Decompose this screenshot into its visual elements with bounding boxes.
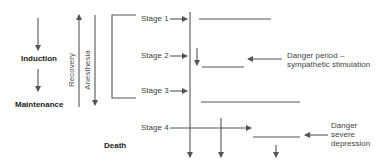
stage-bracket — [112, 15, 136, 98]
induction-label: Induction — [21, 55, 57, 63]
stage-4-label: Stage 4 — [141, 124, 169, 132]
danger-severe-line1: Danger — [331, 121, 370, 130]
recovery-label: Recovery — [68, 50, 76, 90]
danger-severe-line2: severe — [331, 130, 370, 139]
danger-period-note: Danger period – sympathetic stimulation — [287, 51, 370, 69]
stage-2-label: Stage 2 — [141, 52, 169, 60]
maintenance-label: Maintenance — [15, 101, 63, 109]
danger-period-line2: sympathetic stimulation — [287, 60, 370, 69]
anesthesia-label: Anesthesia — [84, 48, 92, 92]
danger-period-line1: Danger period – — [287, 51, 370, 60]
death-label: Death — [104, 142, 126, 150]
danger-severe-note: Danger severe depression — [331, 121, 370, 148]
stage-1-label: Stage 1 — [141, 15, 169, 23]
anesthesia-stages-diagram — [0, 0, 378, 164]
danger-severe-line3: depression — [331, 139, 370, 148]
stage-3-label: Stage 3 — [141, 87, 169, 95]
